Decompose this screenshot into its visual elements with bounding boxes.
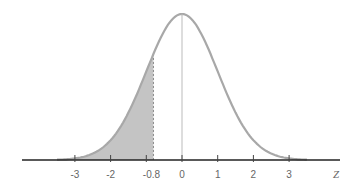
tick-label: -0.8 [143,169,161,180]
tick-label: 1 [215,169,221,180]
tick-label: 3 [286,169,292,180]
tick-label: 0 [179,169,185,180]
normal-distribution-chart: -3-2-0.80123 Z [0,0,358,194]
x-axis-label: Z [333,168,340,180]
tick-label: 2 [251,169,257,180]
tick-label: -3 [70,169,79,180]
tick-label: -2 [106,169,115,180]
